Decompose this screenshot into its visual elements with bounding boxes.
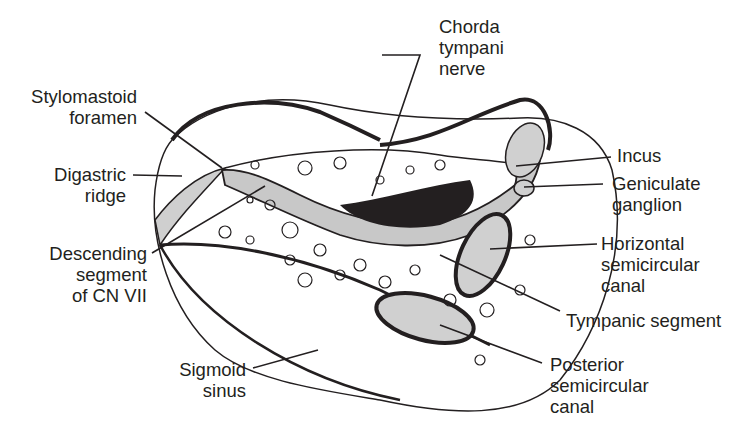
- digastric-ridge-shape: [155, 168, 225, 245]
- label-incus: Incus: [617, 145, 661, 166]
- label-geniculate-ganglion: Geniculate ganglion: [612, 173, 700, 215]
- label-tympanic-segment: Tympanic segment: [566, 310, 721, 331]
- label-horizontal-semicircular-canal: Horizontal semicircular canal: [601, 233, 700, 296]
- geniculate-shape: [514, 180, 534, 196]
- label-descending-segment: Descending segment of CN VII: [49, 243, 147, 306]
- label-stylomastoid-foramen: Stylomastoid foramen: [31, 86, 137, 128]
- incus-shape: [499, 118, 552, 183]
- cavity-edge-top: [225, 150, 520, 168]
- label-sigmoid-sinus: Sigmoid sinus: [179, 359, 246, 401]
- label-chorda-tympani-nerve: Chorda tympani nerve: [439, 16, 504, 79]
- label-posterior-semicircular-canal: Posterior semicircular canal: [550, 354, 649, 417]
- label-digastric-ridge: Digastric ridge: [54, 164, 126, 206]
